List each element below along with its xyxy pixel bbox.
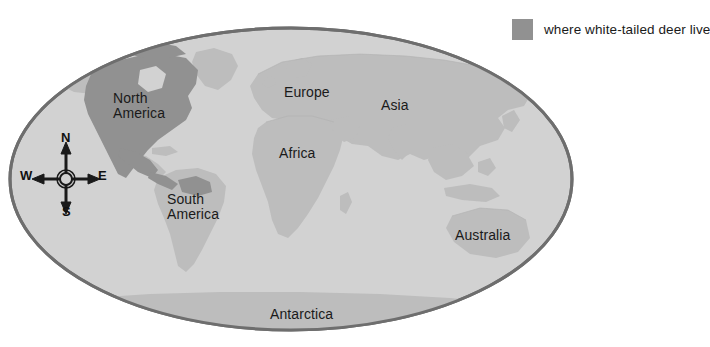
map-label-australia: Australia [455, 228, 510, 243]
map-label-south-america-line1: South [167, 192, 219, 207]
land-new-zealand [540, 252, 556, 272]
map-label-north-america-line2: America [113, 106, 165, 121]
compass-label-south: S [62, 204, 71, 219]
map-label-asia: Asia [381, 98, 409, 113]
map-label-africa: Africa [279, 146, 315, 161]
map-label-south-america: South America [167, 192, 219, 222]
compass-label-north: N [61, 130, 70, 145]
map-label-north-america: North America [113, 91, 165, 121]
compass-label-east: E [98, 168, 107, 183]
map-label-north-america-line1: North [113, 91, 165, 106]
compass-label-west: W [20, 168, 32, 183]
compass-rose: N S W E [20, 130, 112, 222]
map-label-europe: Europe [284, 85, 330, 100]
map-label-antarctica: Antarctica [270, 307, 333, 322]
map-label-south-america-line2: America [167, 207, 219, 222]
